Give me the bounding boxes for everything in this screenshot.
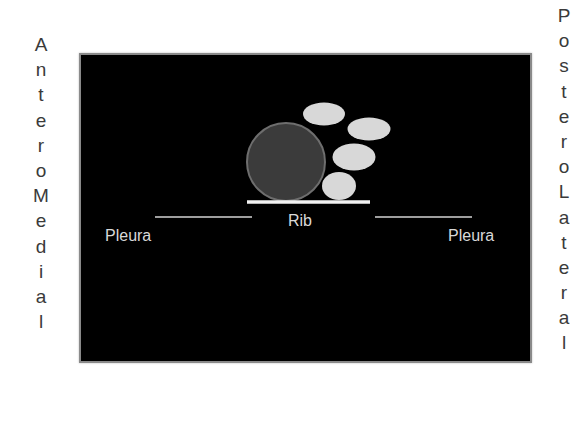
vertical-letter: t	[561, 230, 566, 255]
vertical-letter: d	[36, 234, 47, 259]
light-ellipse	[303, 103, 345, 126]
vertical-letter: s	[559, 53, 569, 78]
vertical-letter: t	[561, 79, 566, 104]
vertical-letter: a	[36, 284, 47, 309]
vertical-letter: L	[559, 179, 570, 204]
vertical-letter: t	[38, 82, 43, 107]
pleura-right-label: Pleura	[448, 227, 494, 244]
vertical-letter: e	[36, 108, 47, 133]
diagram-panel: Rib Pleura Pleura	[79, 53, 532, 363]
vertical-letter: M	[33, 183, 49, 208]
vertical-letter: a	[559, 305, 570, 330]
light-ellipse	[348, 118, 391, 141]
vertical-letter: e	[36, 208, 47, 233]
light-ellipse	[322, 172, 356, 200]
vertical-letter: o	[36, 158, 47, 183]
vertical-letter: A	[35, 32, 48, 57]
vertical-letter: l	[39, 309, 43, 334]
anteromedial-label: AnteroMedial	[29, 32, 53, 334]
light-ellipse	[333, 144, 376, 171]
vertical-letter: o	[559, 28, 570, 53]
rib-label: Rib	[288, 212, 312, 229]
vertical-letter: e	[559, 104, 570, 129]
vertical-letter: P	[558, 3, 571, 28]
vertical-letter: r	[561, 280, 567, 305]
vertical-letter: r	[38, 133, 44, 158]
pleura-left-label: Pleura	[105, 227, 151, 244]
rib-pleura-diagram: Rib Pleura Pleura	[81, 55, 530, 361]
vertical-letter: e	[559, 255, 570, 280]
dark-circle-mass	[247, 123, 325, 201]
vertical-letter: l	[562, 330, 566, 355]
vertical-letter: i	[39, 259, 43, 284]
vertical-letter: r	[561, 129, 567, 154]
vertical-letter: n	[36, 57, 47, 82]
vertical-letter: o	[559, 154, 570, 179]
posterolateral-label: PosteroLateral	[552, 3, 576, 356]
vertical-letter: a	[559, 205, 570, 230]
